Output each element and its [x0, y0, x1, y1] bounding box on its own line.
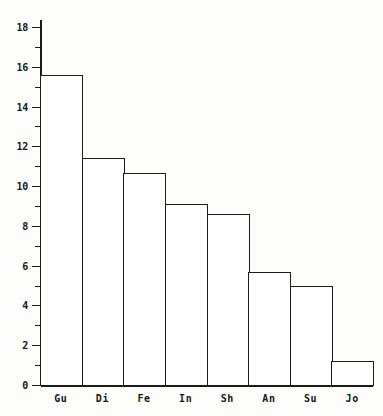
- x-axis-tick-label: In: [179, 393, 192, 404]
- y-axis-tick-labels: 024681012141618: [17, 22, 29, 391]
- bar-chart-figure: 024681012141618 GuDiFeInShAnSuJo: [0, 0, 383, 416]
- y-axis-tick-label: 8: [22, 221, 28, 232]
- y-axis-tick-label: 10: [17, 181, 29, 192]
- y-axis-tick-label: 18: [17, 22, 29, 33]
- x-axis-tick-label: Jo: [346, 393, 359, 404]
- bar-gu: [41, 76, 83, 386]
- y-axis-tick-label: 12: [17, 141, 29, 152]
- x-axis-tick-label: Su: [304, 393, 317, 404]
- bar-fe: [124, 174, 166, 386]
- bar-di: [83, 159, 125, 386]
- y-axis-tick-label: 16: [17, 62, 29, 73]
- bar-in: [166, 205, 208, 386]
- bar-su: [291, 287, 333, 386]
- bar-sh: [208, 215, 250, 386]
- y-axis-minor-ticks: [35, 48, 40, 366]
- x-axis-tick-label: Gu: [54, 393, 67, 404]
- y-axis-tick-label: 4: [22, 300, 28, 311]
- bar-series: [41, 76, 374, 386]
- chart-canvas: 024681012141618 GuDiFeInShAnSuJo: [0, 0, 383, 416]
- y-axis-tick-label: 6: [22, 261, 28, 272]
- x-axis-tick-label: Di: [96, 393, 109, 404]
- y-axis-tick-label: 14: [17, 102, 29, 113]
- x-axis-tick-label: Sh: [221, 393, 234, 404]
- x-axis-tick-label: An: [262, 393, 275, 404]
- bar-an: [249, 273, 291, 386]
- y-axis-tick-label: 2: [22, 340, 28, 351]
- bar-jo: [332, 362, 374, 386]
- x-axis-tick-labels: GuDiFeInShAnSuJo: [54, 393, 359, 404]
- y-axis-tick-label: 0: [22, 380, 28, 391]
- x-axis-tick-label: Fe: [137, 393, 150, 404]
